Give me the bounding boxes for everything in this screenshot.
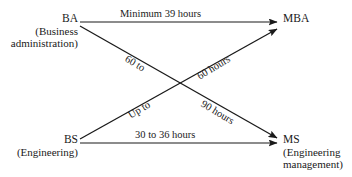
- node-ms-subtitle-line1: (Engineering: [283, 146, 343, 159]
- node-ms-subtitle-line2: management): [283, 158, 343, 171]
- edge-label-ba-to-mba: Minimum 39 hours: [118, 8, 203, 19]
- node-bs-subtitle-line1: (Engineering): [17, 146, 78, 159]
- node-ms: MS (Engineering management): [283, 133, 343, 171]
- node-ba-title: BA: [11, 12, 78, 25]
- edge-bs-to-mba: [80, 29, 277, 139]
- node-ms-title: MS: [283, 133, 343, 146]
- node-bs-title: BS: [17, 133, 78, 146]
- node-ba: BA (Business administration): [11, 12, 78, 50]
- degree-pathway-diagram: BA (Business administration) BS (Enginee…: [0, 0, 352, 177]
- edge-label-bs-to-ms: 30 to 36 hours: [133, 129, 197, 140]
- node-mba-title: MBA: [283, 12, 309, 25]
- node-mba: MBA: [283, 12, 309, 25]
- node-bs: BS (Engineering): [17, 133, 78, 158]
- node-ba-subtitle-line1: (Business: [11, 25, 78, 38]
- node-ba-subtitle-line2: administration): [11, 37, 78, 50]
- edge-ba-to-ms: [80, 26, 277, 138]
